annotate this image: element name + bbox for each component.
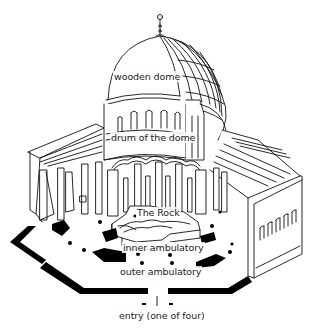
finial-icon <box>156 15 164 37</box>
label-wooden-dome: wooden dome <box>113 71 181 82</box>
label-inner-ambulatory: inner ambulatory <box>122 242 205 253</box>
right-wing <box>210 130 302 278</box>
label-drum-of-dome: drum of the dome <box>110 132 196 143</box>
label-entry: entry (one of four) <box>119 310 205 321</box>
label-outer-ambulatory: outer ambulatory <box>119 266 202 277</box>
dome-cutaway-diagram <box>0 0 317 329</box>
left-wing <box>28 124 104 222</box>
label-the-rock: The Rock <box>136 207 181 218</box>
